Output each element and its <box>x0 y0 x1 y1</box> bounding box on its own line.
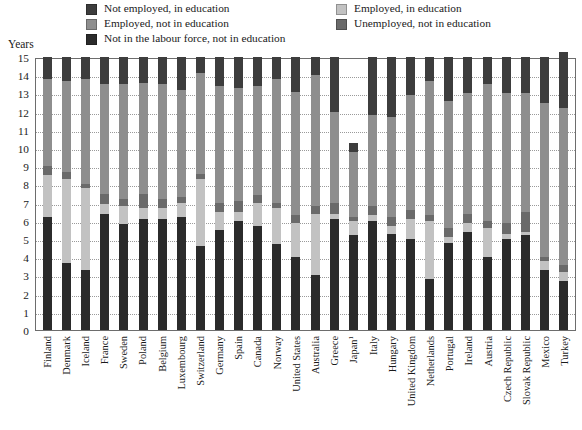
table-row[interactable] <box>253 57 262 330</box>
bar-segment <box>425 81 434 216</box>
bar-segment <box>521 93 530 211</box>
bar-segment <box>540 261 549 270</box>
bar-segment <box>234 221 243 330</box>
table-row[interactable] <box>387 57 396 330</box>
bar-segment <box>291 223 300 258</box>
x-axis-label-slot: Czech Republic <box>497 334 516 428</box>
bar-segment <box>291 257 300 330</box>
y-axis-tick-9: 9 <box>23 162 29 173</box>
bar-segment <box>253 86 262 195</box>
table-row[interactable] <box>234 57 243 330</box>
bar-segment <box>139 57 148 82</box>
table-row[interactable] <box>177 57 186 330</box>
x-axis-label-slot: Portugal <box>440 334 459 428</box>
x-axis-label-slot: Netherlands <box>420 334 439 428</box>
bar-segment <box>43 166 52 175</box>
table-row[interactable] <box>330 57 339 330</box>
x-axis-label: Czech Republic <box>501 336 512 402</box>
x-axis-label: Switzerland <box>194 336 205 386</box>
bar-segment <box>349 143 358 152</box>
x-axis-label: Slovak Republic <box>520 336 531 405</box>
bar-segment <box>540 270 549 330</box>
bar-segment <box>444 243 453 330</box>
bar-segment <box>100 84 109 193</box>
legend-item-employed_in_education[interactable]: Employed, in education <box>336 2 566 16</box>
bar-segment <box>349 235 358 330</box>
legend-item-label: Not in the labour force, not in educatio… <box>104 33 285 45</box>
table-row[interactable] <box>483 57 492 330</box>
table-row[interactable] <box>62 57 71 330</box>
y-axis-tick-4: 4 <box>23 253 29 264</box>
legend-swatch-icon <box>336 19 347 30</box>
table-row[interactable] <box>349 143 358 330</box>
bar-segment <box>502 93 511 222</box>
table-row[interactable] <box>425 57 434 330</box>
legend-item-label: Unemployed, not in education <box>354 18 491 30</box>
x-axis-label: United States <box>290 336 301 392</box>
table-row[interactable] <box>559 52 568 330</box>
bar-segment <box>444 228 453 237</box>
table-row[interactable] <box>119 57 128 330</box>
x-axis-label-slot: Iceland <box>75 334 94 428</box>
table-row[interactable] <box>502 57 511 330</box>
bar-segment <box>62 179 71 263</box>
bar-segment <box>521 235 530 330</box>
bar-segment <box>502 239 511 330</box>
legend-item-not_employed_in_education[interactable]: Not employed, in education <box>86 2 336 16</box>
table-row[interactable] <box>81 57 90 330</box>
bar-segment <box>177 90 186 197</box>
table-row[interactable] <box>196 57 205 330</box>
chart-plot-wrapper: 1514131211109876543210 <box>0 55 582 337</box>
bar-segment <box>158 84 167 199</box>
bar-slot <box>229 59 248 330</box>
y-axis-tick-8: 8 <box>23 180 29 191</box>
table-row[interactable] <box>311 57 320 330</box>
y-axis-tick-12: 12 <box>18 107 29 118</box>
bar-segment <box>291 57 300 92</box>
x-axis-label-slot: Norway <box>267 334 286 428</box>
table-row[interactable] <box>540 57 549 330</box>
table-row[interactable] <box>406 57 415 330</box>
bar-slot <box>172 59 191 330</box>
y-axis-tick-13: 13 <box>18 89 29 100</box>
legend-item-unemployed_not_in_education[interactable]: Unemployed, not in education <box>336 17 566 31</box>
bar-segment <box>215 212 224 230</box>
table-row[interactable] <box>139 57 148 330</box>
legend-item-not_in_labour_force_not_in_education[interactable]: Not in the labour force, not in educatio… <box>86 32 336 46</box>
bar-segment <box>330 112 339 203</box>
x-axis-label: Portugal <box>444 336 455 371</box>
bar-slot <box>325 59 344 330</box>
bar-slot <box>535 59 554 330</box>
x-axis-label: Australia <box>309 336 320 374</box>
bar-slot <box>95 59 114 330</box>
bar-segment <box>196 246 205 330</box>
table-row[interactable] <box>291 57 300 330</box>
table-row[interactable] <box>43 57 52 330</box>
legend-item-label: Not employed, in education <box>104 3 230 15</box>
x-axis-label-slot: Poland <box>133 334 152 428</box>
x-axis-label-slot: Germany <box>210 334 229 428</box>
bar-segment <box>43 57 52 79</box>
table-row[interactable] <box>100 57 109 330</box>
legend-swatch-icon <box>86 34 97 45</box>
bar-segment <box>119 199 128 206</box>
table-row[interactable] <box>521 57 530 330</box>
x-axis-label-slot: Mexico <box>535 334 554 428</box>
bar-segment <box>559 108 568 265</box>
bar-segment <box>158 208 167 219</box>
legend-swatch-icon <box>336 4 347 15</box>
bar-segment <box>521 57 530 93</box>
legend-item-employed_not_in_education[interactable]: Employed, not in education <box>86 17 336 31</box>
x-axis-label-slot: Greece <box>325 334 344 428</box>
table-row[interactable] <box>215 57 224 330</box>
table-row[interactable] <box>444 57 453 330</box>
y-axis-tick-0: 0 <box>23 326 29 337</box>
x-axis-label-slot: Luxembourg <box>171 334 190 428</box>
table-row[interactable] <box>463 57 472 330</box>
bar-segment <box>177 57 186 90</box>
table-row[interactable] <box>158 57 167 330</box>
bar-slot <box>306 59 325 330</box>
table-row[interactable] <box>368 57 377 330</box>
table-row[interactable] <box>272 57 281 330</box>
bar-segment <box>483 257 492 330</box>
